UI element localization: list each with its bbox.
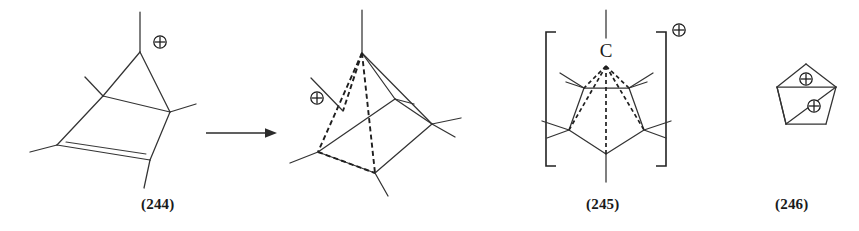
methyl-stick-right-intermediate [432, 118, 461, 124]
reaction-arrow [206, 128, 277, 138]
methyl-stick-left-244 [85, 77, 103, 96]
methyl-stick-alkene-right-244 [144, 160, 150, 188]
bracket-left-245 [546, 32, 556, 166]
apex-carbon-label: C [600, 40, 613, 61]
scheme-canvas: C [0, 0, 859, 231]
apex-dashed-bonds-245 [569, 66, 644, 154]
left-square-bracket [546, 32, 556, 166]
bond-ring-right-down [150, 112, 170, 160]
base-edge-top-left [318, 99, 395, 152]
reaction-scheme: C [0, 0, 859, 231]
cyclopropane-ring-244 [103, 52, 170, 112]
apex-solid-edges [362, 10, 432, 124]
base-edge-lower-right [606, 130, 644, 154]
plus-charge-245 [673, 24, 685, 36]
plus-charge-upper-246 [800, 73, 812, 85]
arrow-head [265, 128, 277, 138]
base-edge-right-top [395, 99, 432, 124]
base-edge-lower-left [569, 130, 606, 154]
caption-244: (244) [141, 196, 175, 213]
plus-charge-244 [154, 36, 166, 48]
base-quadrilateral [318, 99, 432, 173]
methyl-stick-right-b-245 [644, 130, 666, 138]
structure-244[interactable] [30, 12, 196, 188]
bond-apex-to-right [140, 52, 170, 112]
dashed-rear-edges [318, 53, 375, 173]
plus-charge-intermediate [311, 92, 323, 104]
edge-apex-to-right [362, 53, 432, 124]
methyl-stick-left-intermediate [290, 152, 318, 163]
cyclobutene-ring-244 [57, 96, 170, 160]
structure-246[interactable] [777, 64, 836, 124]
methyl-stick-alkene-left-244 [30, 145, 57, 152]
right-square-bracket [656, 32, 666, 166]
bracket-right-245 [656, 32, 666, 166]
edge-apex-to-centre [362, 53, 395, 99]
bond-left-to-right [103, 96, 170, 112]
methyl-stick-bottom-intermediate [375, 173, 388, 196]
methyl-stick-upper-left-245 [560, 73, 584, 88]
structure-pyramidal-intermediate[interactable] [290, 10, 461, 196]
methyl-stick-right-245 [644, 121, 671, 130]
bond-apex-to-left [103, 52, 140, 96]
methyl-stick-upper-right-245 [629, 73, 653, 88]
dashed-apex-to-right [606, 66, 644, 130]
base-edge-bottom-right [375, 124, 432, 173]
dashed-apex-to-bottom [362, 53, 375, 173]
methyl-stick-right-lower-intermediate [432, 124, 455, 137]
plus-charge-lower-246 [808, 100, 820, 112]
caption-246: (246) [775, 196, 809, 213]
dashed-apex-short-spur [343, 53, 362, 111]
bond-ring-left-down [57, 96, 103, 145]
methyl-stick-left-b-245 [547, 130, 569, 138]
structure-245[interactable]: C [542, 10, 685, 182]
caption-245: (245) [586, 196, 620, 213]
dashed-apex-to-left [569, 66, 606, 130]
internal-edge-left-246 [777, 87, 786, 124]
methyl-stick-right-244 [170, 104, 196, 112]
